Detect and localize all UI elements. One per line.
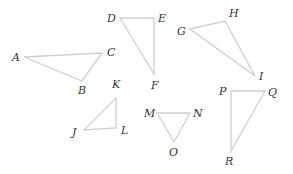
vertex-label-e: E [157,12,166,25]
triangle-abc: A B C [11,46,116,97]
vertex-label-q: Q [268,86,277,99]
vertex-label-n: N [192,107,203,120]
triangle-ghi: G H I [177,7,264,83]
triangle-def-shape [120,18,154,74]
vertex-label-k: K [111,78,121,91]
vertex-label-h: H [228,7,239,20]
vertex-label-i: I [258,70,264,83]
triangle-jkl-shape [84,98,116,130]
triangle-pqr: P Q R [218,85,277,168]
vertex-label-m: M [143,107,156,120]
triangle-ghi-shape [190,21,255,76]
vertex-label-r: R [224,155,233,168]
vertex-label-f: F [150,79,159,92]
vertex-label-a: A [11,51,20,64]
triangle-mno: M N O [143,107,203,159]
vertex-label-o: O [169,146,178,159]
vertex-label-l: L [120,124,128,137]
triangle-mno-shape [157,113,190,142]
vertex-label-p: P [218,85,227,98]
vertex-label-d: D [106,12,116,25]
vertex-label-c: C [107,46,116,59]
vertex-label-g: G [177,25,186,38]
triangle-abc-shape [24,53,102,81]
vertex-label-j: J [70,126,77,139]
vertex-label-b: B [77,84,86,97]
triangles-diagram: A B C D E F G H I J K L M N O P Q R [0,0,293,174]
triangle-pqr-shape [231,91,265,151]
